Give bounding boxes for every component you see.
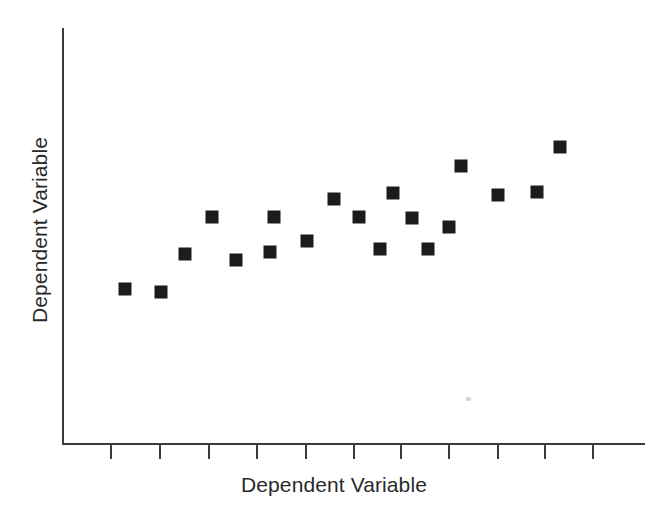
data-point-17 (531, 186, 544, 199)
data-point-1 (155, 286, 168, 299)
data-point-7 (301, 235, 314, 248)
x-axis-label: Dependent Variable (0, 473, 668, 497)
scan-artifact-speck (466, 397, 471, 401)
data-point-12 (406, 212, 419, 225)
data-point-8 (328, 193, 341, 206)
data-point-11 (387, 187, 400, 200)
data-point-2 (179, 248, 192, 261)
data-point-10 (374, 243, 387, 256)
data-point-14 (443, 221, 456, 234)
data-point-3 (206, 211, 219, 224)
data-point-18 (554, 141, 567, 154)
y-axis-label: Dependent Variable (28, 100, 52, 360)
plot-area (0, 0, 668, 519)
data-point-9 (353, 211, 366, 224)
data-point-4 (230, 254, 243, 267)
data-point-5 (264, 246, 277, 259)
data-point-0 (119, 283, 132, 296)
scatter-plot-figure: Dependent Variable Dependent Variable (0, 0, 668, 519)
data-point-13 (422, 243, 435, 256)
data-point-15 (455, 160, 468, 173)
data-point-6 (268, 211, 281, 224)
data-point-16 (492, 189, 505, 202)
